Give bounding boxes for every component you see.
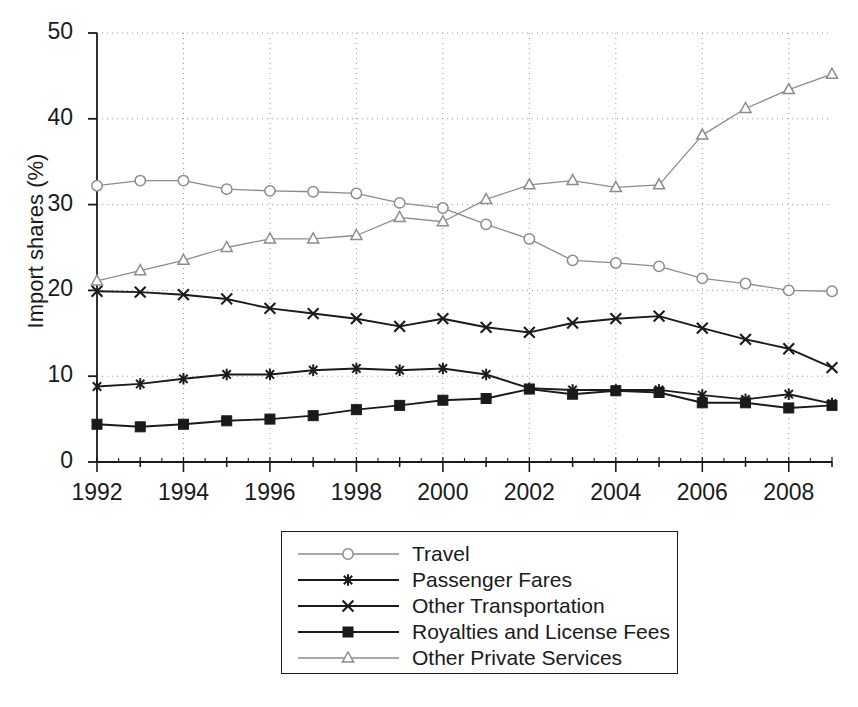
- data-point-x-cross: [827, 362, 838, 373]
- x-tick-label: 2002: [489, 479, 569, 506]
- data-point-open-triangle: [308, 233, 319, 243]
- data-point-open-circle: [343, 549, 353, 559]
- legend-marker-asterisk-icon: [296, 567, 401, 593]
- legend-marker-open-circle-icon: [296, 541, 401, 567]
- data-point-open-circle: [394, 198, 404, 208]
- data-point-open-circle: [265, 186, 275, 196]
- line-chart-figure: Import shares (%) 50403020100 1992199419…: [0, 0, 858, 707]
- x-tick-label: 2000: [403, 479, 483, 506]
- data-point-open-triangle: [826, 68, 837, 78]
- data-point-open-circle: [351, 188, 361, 198]
- data-point-filled-square: [481, 394, 491, 404]
- data-point-filled-square: [741, 398, 751, 408]
- y-tick-label: 50: [25, 18, 73, 45]
- legend-item[interactable]: Other Private Services: [282, 645, 677, 671]
- data-point-open-triangle: [567, 175, 578, 185]
- data-point-filled-square: [308, 411, 318, 421]
- x-tick-label: 1998: [316, 479, 396, 506]
- y-tick-label: 30: [25, 190, 73, 217]
- x-tick-label: 2006: [662, 479, 742, 506]
- x-tick-label: 2008: [749, 479, 829, 506]
- data-point-open-circle: [222, 184, 232, 194]
- data-point-open-circle: [697, 273, 707, 283]
- axes-spines: [88, 33, 832, 472]
- series-other-private-services: [91, 68, 837, 285]
- series-line: [97, 368, 832, 403]
- series-royalties-and-license-fees: [92, 384, 837, 432]
- series-travel: [92, 175, 837, 296]
- legend-marker-filled-square-icon: [296, 619, 401, 645]
- x-tick-label: 1994: [143, 479, 223, 506]
- data-point-filled-square: [222, 416, 232, 426]
- data-point-filled-square: [178, 419, 188, 429]
- data-point-open-circle: [92, 181, 102, 191]
- data-point-open-circle: [481, 219, 491, 229]
- data-point-filled-square: [135, 422, 145, 432]
- data-point-open-triangle: [264, 233, 275, 243]
- data-point-filled-square: [92, 419, 102, 429]
- series-line: [97, 181, 832, 292]
- legend-item[interactable]: Travel: [282, 541, 677, 567]
- series-line: [97, 291, 832, 367]
- y-tick-label: 10: [25, 361, 73, 388]
- y-tick-label: 0: [25, 447, 73, 474]
- data-point-filled-square: [524, 384, 534, 394]
- legend-item[interactable]: Royalties and License Fees: [282, 619, 677, 645]
- series-line: [97, 389, 832, 427]
- data-point-open-circle: [438, 203, 448, 213]
- data-point-filled-square: [343, 627, 353, 637]
- legend-label: Royalties and License Fees: [412, 620, 670, 644]
- data-point-open-triangle: [697, 129, 708, 139]
- data-point-open-circle: [135, 175, 145, 185]
- data-point-open-triangle: [342, 652, 353, 662]
- data-point-filled-square: [568, 389, 578, 399]
- legend-label: Travel: [412, 542, 470, 566]
- x-tick-label: 2004: [576, 479, 656, 506]
- data-point-filled-square: [827, 400, 837, 410]
- data-point-open-circle: [827, 286, 837, 296]
- x-tick-label: 1992: [57, 479, 137, 506]
- legend-label: Other Private Services: [412, 646, 622, 670]
- data-point-filled-square: [784, 403, 794, 413]
- data-point-open-circle: [524, 234, 534, 244]
- data-point-filled-square: [438, 395, 448, 405]
- data-point-open-circle: [178, 175, 188, 185]
- y-axis-title: Import shares (%): [23, 101, 49, 381]
- x-tick-label: 1996: [230, 479, 310, 506]
- data-point-filled-square: [265, 414, 275, 424]
- chart-legend: TravelPassenger FaresOther Transportatio…: [281, 531, 678, 674]
- series-other-transportation: [92, 286, 838, 373]
- data-point-filled-square: [654, 388, 664, 398]
- legend-label: Passenger Fares: [412, 568, 572, 592]
- data-point-filled-square: [611, 386, 621, 396]
- data-point-open-triangle: [394, 211, 405, 221]
- legend-marker-x-cross-icon: [296, 593, 401, 619]
- data-point-filled-square: [395, 400, 405, 410]
- data-point-open-circle: [567, 255, 577, 265]
- legend-item[interactable]: Passenger Fares: [282, 567, 677, 593]
- y-tick-label: 40: [25, 104, 73, 131]
- legend-label: Other Transportation: [412, 594, 605, 618]
- legend-item[interactable]: Other Transportation: [282, 593, 677, 619]
- data-point-filled-square: [697, 398, 707, 408]
- data-point-open-circle: [740, 278, 750, 288]
- series-line: [97, 74, 832, 281]
- legend-marker-open-triangle-icon: [296, 645, 401, 671]
- y-tick-label: 20: [25, 275, 73, 302]
- data-point-open-circle: [611, 258, 621, 268]
- data-point-open-circle: [308, 187, 318, 197]
- data-point-filled-square: [351, 405, 361, 415]
- data-point-open-circle: [654, 261, 664, 271]
- data-point-open-circle: [784, 285, 794, 295]
